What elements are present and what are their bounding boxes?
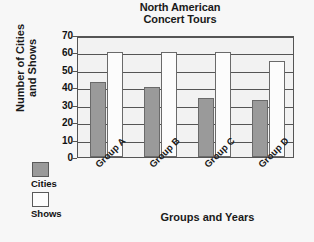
- bar-chart: North American Concert Tours Number of C…: [0, 0, 314, 242]
- legend-swatch-shows: [32, 192, 49, 207]
- bar-cities-group-c: [198, 98, 214, 157]
- y-tick-mark: [72, 158, 77, 159]
- chart-legend: Cities Shows: [31, 162, 91, 222]
- bar-series-container: [78, 37, 293, 157]
- y-tick-label: 60: [43, 47, 73, 58]
- y-tick-label: 70: [43, 30, 73, 41]
- legend-swatch-cities: [32, 162, 49, 177]
- y-axis-title: Number of Cities and Shows: [11, 3, 41, 133]
- bar-cities-group-d: [252, 100, 268, 158]
- y-tick-label: 40: [43, 82, 73, 93]
- legend-label-shows: Shows: [31, 208, 91, 219]
- chart-title-line-1: North American: [80, 2, 280, 14]
- y-tick-label: 30: [43, 100, 73, 111]
- bar-cities-group-b: [144, 87, 160, 157]
- chart-title: North American Concert Tours: [80, 2, 280, 25]
- plot-area: [77, 36, 294, 158]
- y-axis-title-line-2: and Shows: [26, 24, 39, 112]
- y-axis-title-line-1: Number of Cities: [14, 24, 27, 112]
- y-tick-label: 20: [43, 117, 73, 128]
- chart-title-line-2: Concert Tours: [80, 14, 280, 26]
- x-axis-title: Groups and Years: [120, 211, 295, 223]
- legend-label-cities: Cities: [31, 178, 91, 189]
- bar-cities-group-a: [90, 82, 106, 157]
- legend-entry-shows: Shows: [31, 192, 91, 219]
- legend-entry-cities: Cities: [31, 162, 91, 189]
- y-tick-label: 50: [43, 65, 73, 76]
- y-tick-label: 10: [43, 135, 73, 146]
